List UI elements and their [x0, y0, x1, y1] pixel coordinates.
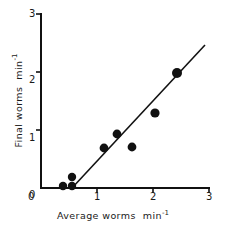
y-tick-label-2: 2	[29, 75, 35, 85]
data-point	[128, 143, 137, 152]
y-axis-title-unit: min	[13, 61, 24, 80]
regression-line	[72, 45, 205, 188]
x-axis-title: Average wormsmin-1	[57, 208, 169, 221]
data-point	[150, 108, 159, 117]
x-axis-title-unit: min	[143, 210, 162, 221]
data-point-group	[59, 68, 182, 190]
y-tick-label-1: 1	[29, 133, 35, 143]
x-axis-title-exponent: -1	[162, 209, 169, 217]
x-tick-label-2: 2	[150, 192, 156, 202]
y-axis-title-main: Final worms	[13, 87, 24, 148]
data-point	[100, 144, 109, 153]
x-tick-label-3: 3	[206, 192, 212, 202]
x-tick-label-1: 1	[94, 192, 100, 202]
data-point	[68, 173, 76, 181]
y-axis-title: Final wormsmin-1	[10, 53, 23, 149]
x-tick-label-0: 0	[28, 192, 34, 202]
x-axis-title-main: Average worms	[57, 210, 136, 221]
data-point	[59, 182, 67, 190]
axis-spines	[41, 14, 209, 188]
data-point	[172, 68, 182, 78]
y-axis-title-exponent: -1	[11, 54, 19, 61]
data-point	[68, 182, 76, 190]
data-point	[113, 130, 122, 139]
y-tick-label-3: 3	[29, 9, 35, 19]
scatter-plot-figure: 0 1 2 3 0 1 2 3 Average wormsmin-1 Final…	[0, 0, 229, 230]
